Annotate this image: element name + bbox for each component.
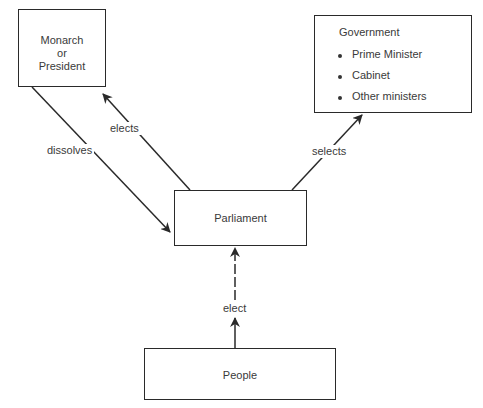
government-item-prime-minister: Prime Minister — [352, 48, 422, 60]
people-label: People — [145, 368, 335, 382]
edge-label-selects: selects — [310, 145, 348, 158]
edge-label-elect: elect — [221, 302, 248, 315]
monarch-label: Monarch — [19, 33, 105, 47]
people-box: People — [144, 348, 336, 400]
edge-label-elects: elects — [108, 122, 141, 135]
or-label: or — [19, 46, 105, 60]
edge-label-dissolves: dissolves — [45, 144, 94, 157]
dissolves-arrow — [32, 87, 170, 232]
government-item-cabinet: Cabinet — [352, 69, 390, 81]
bullet-icon — [338, 75, 342, 79]
government-box: Government Prime Minister Cabinet Other … — [314, 15, 472, 113]
president-label: President — [19, 59, 105, 73]
government-item-other-ministers: Other ministers — [352, 90, 427, 102]
monarch-president-box: Monarch or President — [18, 9, 106, 87]
bullet-icon — [338, 96, 342, 100]
bullet-icon — [338, 54, 342, 58]
parliament-label: Parliament — [175, 211, 306, 225]
government-title: Government — [339, 26, 400, 38]
parliament-box: Parliament — [174, 190, 307, 246]
